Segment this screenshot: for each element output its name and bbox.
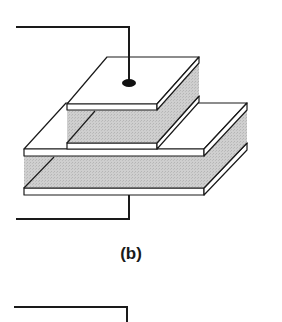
next-figure-lead [14,307,127,322]
figure-caption: (b) [0,244,262,264]
contact-dot [122,79,136,87]
capacitor-stack-diagram [0,0,282,322]
bottom-lead [16,195,129,219]
